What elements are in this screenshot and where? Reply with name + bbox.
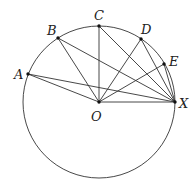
label-o: O	[91, 109, 102, 124]
point-e	[162, 62, 165, 65]
segment-oe	[99, 64, 164, 102]
point-b	[56, 36, 59, 39]
point-x	[173, 100, 176, 103]
point-a	[26, 72, 29, 75]
point-o	[97, 100, 100, 103]
label-d: D	[140, 22, 152, 37]
circle-diagram: ABCDEXO	[0, 0, 195, 188]
segment-ob	[58, 38, 99, 102]
label-a: A	[13, 67, 23, 82]
point-c	[97, 24, 100, 27]
label-e: E	[168, 54, 179, 69]
label-b: B	[46, 23, 57, 38]
label-c: C	[94, 8, 104, 23]
point-d	[139, 37, 142, 40]
segment-oa	[28, 74, 99, 102]
segment-od	[99, 39, 141, 102]
label-x: X	[178, 96, 189, 111]
point-labels: ABCDEXO	[13, 8, 189, 124]
